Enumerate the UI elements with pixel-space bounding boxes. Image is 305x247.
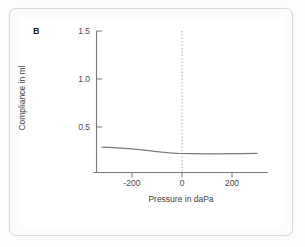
figure-root: B 1.5 1.0 0.5 -200 0 200 Compliance in m… — [0, 0, 305, 247]
plot-canvas — [0, 0, 305, 247]
compliance-curve — [102, 147, 257, 154]
plot-area: 1.5 1.0 0.5 -200 0 200 Compliance in ml … — [0, 0, 305, 247]
